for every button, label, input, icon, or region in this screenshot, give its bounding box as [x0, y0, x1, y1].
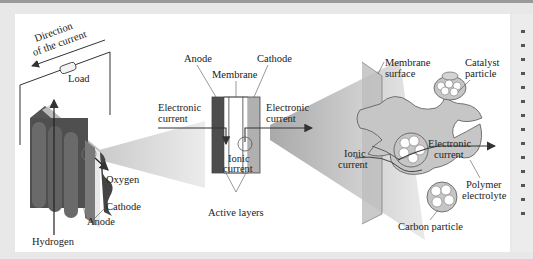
cell-membrane-label: Membrane — [212, 69, 258, 80]
anode-label: Anode — [87, 216, 115, 227]
membrane-surface-label-2: surface — [385, 68, 416, 79]
active-layers-label: Active layers — [208, 207, 264, 218]
membrane-surface-label-1: Membrane — [385, 57, 431, 68]
carbon-particle-bottom — [427, 182, 457, 212]
cathode-label: Cathode — [106, 201, 141, 212]
load-label: Load — [68, 73, 90, 84]
catalyst-label-1: Catalyst — [465, 57, 499, 68]
carbon-particle-label: Carbon particle — [398, 221, 463, 232]
anode-layer — [212, 97, 224, 173]
polymer-label-1: Polymer — [466, 179, 502, 190]
fuel-cell-stack — [30, 104, 113, 228]
ionic-label-2: current — [223, 163, 253, 174]
catalyst-label-2: particle — [465, 68, 497, 79]
electronic-out-label-1: Electronic — [266, 102, 309, 113]
electronic-in-label-2: current — [158, 113, 188, 124]
micro-ionic-label-1: Ionic — [344, 148, 366, 159]
micro-electronic-label-2: current — [434, 149, 464, 160]
micro-ionic-label-2: current — [338, 159, 368, 170]
cell-cathode-label: Cathode — [257, 53, 292, 64]
micro-view: Membrane surface Catalyst particle Ionic… — [338, 57, 507, 232]
cell-anode-label: Anode — [184, 53, 212, 64]
hydrogen-label: Hydrogen — [32, 236, 75, 247]
polymer-label-2: electrolyte — [462, 190, 507, 201]
cathode-layer — [248, 97, 260, 173]
stack-view: Direction of the current Load Oxygen Cat… — [20, 20, 141, 247]
electronic-out-label-2: current — [266, 113, 296, 124]
electronic-in-label-1: Electronic — [158, 102, 201, 113]
oxygen-label: Oxygen — [106, 174, 140, 185]
micro-electronic-label-1: Electronic — [428, 138, 471, 149]
fuel-cell-diagram: Direction of the current Load Oxygen Cat… — [0, 0, 533, 259]
